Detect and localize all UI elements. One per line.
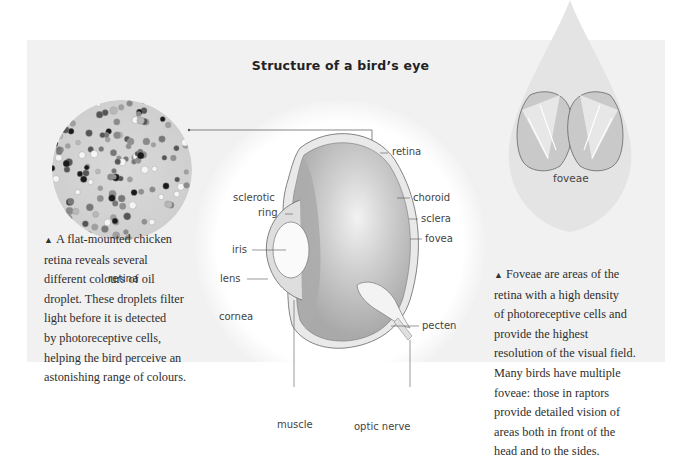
foveae-inset-label: foveae bbox=[553, 172, 589, 184]
retina-caption: ▲A flat-mounted chicken retina reveals s… bbox=[44, 230, 186, 388]
triangle-marker-icon: ▲ bbox=[44, 235, 53, 245]
label-muscle: muscle bbox=[277, 419, 313, 430]
label-optic-nerve: optic nerve bbox=[354, 421, 411, 432]
triangle-marker-icon: ▲ bbox=[494, 270, 503, 280]
foveae-caption: ▲Foveae are areas of the retina with a h… bbox=[494, 265, 636, 459]
